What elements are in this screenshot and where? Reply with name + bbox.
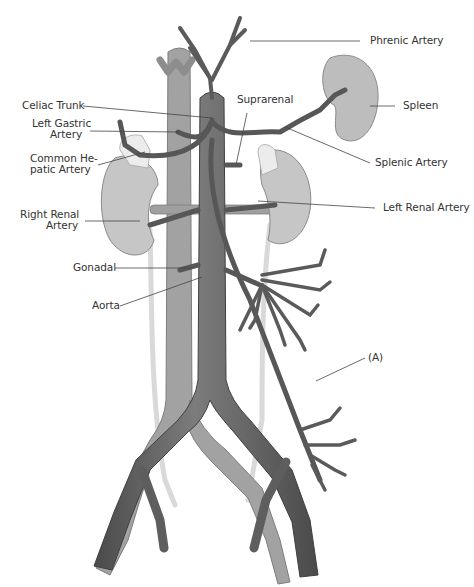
- label-celiac-trunk: Celiac Trunk: [22, 100, 85, 111]
- label-a-marker: (A): [368, 352, 383, 363]
- label-left-gastric-line2: Artery: [32, 129, 82, 140]
- label-common-hepatic-artery: Common He- patic Artery: [30, 153, 90, 175]
- label-left-renal-artery: Left Renal Artery: [383, 202, 470, 213]
- label-right-renal-artery: Right Renal Artery: [20, 209, 78, 231]
- anatomy-illustration: [0, 0, 474, 587]
- label-spleen: Spleen: [403, 100, 438, 111]
- label-aorta: Aorta: [92, 300, 120, 311]
- label-suprarenal: Suprarenal: [237, 94, 293, 105]
- label-phrenic-artery: Phrenic Artery: [370, 35, 443, 46]
- label-gonadal: Gonadal: [73, 262, 116, 273]
- aorta-diagram: Phrenic Artery Celiac Trunk Suprarenal S…: [0, 0, 474, 587]
- label-splenic-artery: Splenic Artery: [375, 157, 448, 168]
- label-common-hepatic-line2: patic Artery: [30, 164, 90, 175]
- label-right-renal-line2: Artery: [20, 220, 78, 231]
- label-left-gastric-artery: Left Gastric Artery: [32, 118, 82, 140]
